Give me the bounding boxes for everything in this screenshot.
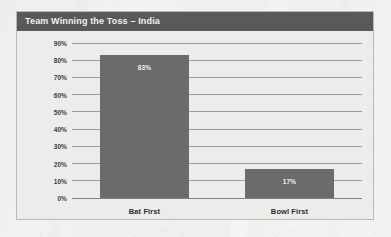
- y-axis-tick-label: 10%: [54, 177, 67, 184]
- chart-header-bar: Team Winning the Toss – India: [17, 12, 373, 31]
- scanned-page: Team Winning the Toss – India 0%10%20%30…: [0, 0, 391, 237]
- y-axis-tick-label: 50%: [54, 108, 67, 115]
- x-axis-category-label: Bat First: [72, 207, 217, 216]
- bar-value-label: 17%: [245, 178, 333, 185]
- y-axis-tick-label: 60%: [54, 91, 67, 98]
- gridline: [72, 43, 362, 44]
- chart-panel: Team Winning the Toss – India 0%10%20%30…: [16, 11, 374, 220]
- plot-area: 0%10%20%30%40%50%60%70%80%90%83%Bat Firs…: [72, 43, 362, 198]
- y-axis-tick-label: 20%: [54, 160, 67, 167]
- bar-value-label: 83%: [100, 64, 188, 71]
- y-axis-tick-label: 40%: [54, 126, 67, 133]
- bar[interactable]: 17%: [245, 169, 333, 198]
- y-axis-tick-label: 90%: [54, 40, 67, 47]
- y-axis-tick-label: 0%: [57, 195, 67, 202]
- y-axis-tick-label: 70%: [54, 74, 67, 81]
- bar[interactable]: 83%: [100, 55, 188, 198]
- chart-title: Team Winning the Toss – India: [25, 12, 160, 31]
- y-axis-tick-label: 30%: [54, 143, 67, 150]
- x-axis-category-label: Bowl First: [217, 207, 362, 216]
- y-axis-tick-label: 80%: [54, 57, 67, 64]
